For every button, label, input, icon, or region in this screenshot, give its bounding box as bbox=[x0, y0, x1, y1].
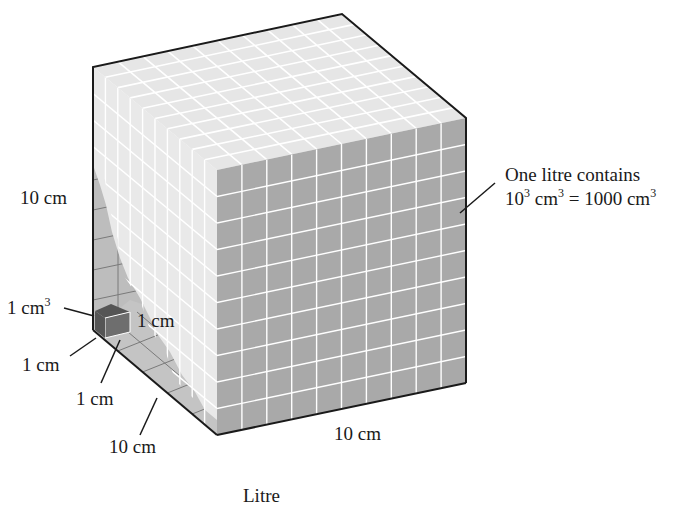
unit-cube-volume-base: 1 cm bbox=[7, 297, 44, 318]
note-exp-1: 3 bbox=[524, 186, 530, 200]
note-equals-1000: = 1000 cm bbox=[564, 188, 650, 209]
width-label: 10 cm bbox=[334, 424, 381, 443]
note-line-2: 103 cm3 = 1000 cm3 bbox=[505, 189, 656, 208]
unit-edge-label-right: 1 cm bbox=[137, 311, 174, 330]
unit-cube-volume-label: 1 cm3 bbox=[7, 298, 50, 317]
note-line-1: One litre contains bbox=[505, 165, 640, 184]
unit-edge-label-left: 1 cm bbox=[22, 355, 59, 374]
diagram-title: Litre bbox=[243, 486, 280, 505]
unit-cube-volume-exp: 3 bbox=[44, 295, 50, 309]
note-base-ten: 10 bbox=[505, 188, 524, 209]
leader-unit-volume bbox=[64, 308, 94, 316]
height-label: 10 cm bbox=[20, 188, 67, 207]
depth-label: 10 cm bbox=[109, 437, 156, 456]
note-exp-3: 3 bbox=[650, 186, 656, 200]
note-exp-2: 3 bbox=[558, 186, 564, 200]
note-unit-1: cm bbox=[530, 188, 558, 209]
leader-unit-edge-2 bbox=[101, 340, 120, 383]
leader-unit-edge-1 bbox=[70, 338, 96, 356]
unit-edge-label-bottom: 1 cm bbox=[76, 389, 113, 408]
leader-depth bbox=[140, 398, 157, 435]
